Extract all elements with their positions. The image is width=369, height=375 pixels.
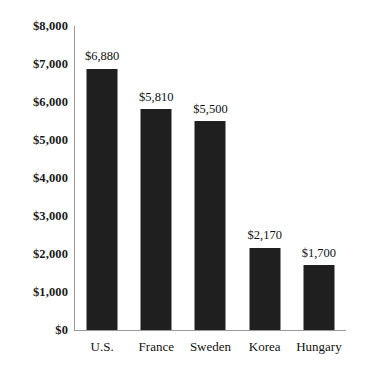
y-axis-tick-label: $3,000 — [4, 210, 68, 223]
bar-value-label: $1,700 — [302, 247, 336, 260]
y-axis-tick-label: $1,000 — [4, 286, 68, 299]
x-axis-category-label: Korea — [238, 340, 292, 353]
x-axis-category-label: Sweden — [183, 340, 237, 353]
bar-value-label: $5,810 — [139, 91, 173, 104]
x-axis-category-label: U.S. — [75, 340, 129, 353]
x-axis-line — [74, 330, 346, 331]
bar-group: $5,500 — [183, 26, 237, 330]
x-axis-category-label: Hungary — [292, 340, 346, 353]
plot-area: $6,880$5,810$5,500$2,170$1,700 — [75, 26, 346, 330]
x-axis-category-label: France — [129, 340, 183, 353]
bar-group: $6,880 — [75, 26, 129, 330]
bar — [249, 248, 280, 330]
bar-chart: $8,000$7,000$6,000$5,000$4,000$3,000$2,0… — [0, 0, 369, 375]
bar-group: $5,810 — [129, 26, 183, 330]
y-axis-tick-label: $2,000 — [4, 248, 68, 261]
bar — [195, 121, 226, 330]
y-axis-tick-label: $7,000 — [4, 58, 68, 71]
bar-group: $1,700 — [292, 26, 346, 330]
bar — [87, 69, 118, 330]
y-axis-tick-label: $5,000 — [4, 134, 68, 147]
bar-value-label: $5,500 — [193, 103, 227, 116]
bar-group: $2,170 — [238, 26, 292, 330]
y-axis-tick-label: $4,000 — [4, 172, 68, 185]
bar-value-label: $6,880 — [85, 50, 119, 63]
bar — [141, 109, 172, 330]
y-axis-tick-label: $8,000 — [4, 20, 68, 33]
y-axis-tick-label: $6,000 — [4, 96, 68, 109]
bar-value-label: $2,170 — [248, 229, 282, 242]
bar — [303, 265, 334, 330]
y-axis-tick-label: $0 — [4, 324, 68, 337]
